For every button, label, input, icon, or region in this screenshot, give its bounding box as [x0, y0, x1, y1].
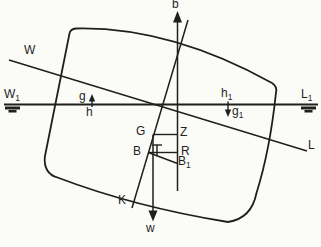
label-wedge-g1: g1 — [232, 105, 243, 120]
buoyancy-arrowhead-up — [173, 11, 182, 23]
label-center-of-gravity-G: G — [136, 125, 145, 137]
inclined-waterline-wl — [9, 60, 307, 151]
label-waterline-W1: W1 — [4, 88, 20, 103]
label-waterline-L1: L1 — [301, 88, 312, 103]
g1-down-arrowhead — [225, 110, 231, 118]
left-shore-hatch-upper — [5, 107, 20, 110]
label-L1-subscript: 1 — [308, 93, 313, 103]
label-wedge-h: h — [86, 106, 93, 118]
label-h1-subscript: 1 — [228, 92, 233, 102]
label-waterline-L: L — [308, 139, 315, 151]
label-keel-K: K — [118, 194, 126, 206]
label-weight-w: w — [146, 222, 155, 234]
label-point-Z: Z — [180, 126, 187, 138]
hull-outline — [45, 28, 277, 222]
label-B1-subscript: 1 — [186, 160, 191, 170]
label-wedge-g: g — [79, 90, 86, 102]
ship-centerline-kb — [132, 20, 188, 208]
label-center-of-buoyancy-B: B — [133, 145, 141, 157]
label-W1-subscript: 1 — [15, 93, 20, 103]
label-buoyancy-b: b — [172, 0, 179, 10]
label-wedge-h1: h1 — [221, 87, 232, 102]
diagram-canvas — [0, 0, 321, 247]
label-waterline-W: W — [24, 44, 35, 56]
g-up-arrowhead — [89, 94, 95, 102]
right-shore-hatch-lower — [305, 110, 313, 113]
label-g1-subscript: 1 — [239, 110, 244, 120]
left-shore-hatch-lower — [9, 110, 17, 113]
weight-arrowhead-down — [149, 211, 158, 222]
ship-stability-diagram: b W W1 g h h1 g1 L1 L G Z B R B1 K w — [0, 0, 321, 247]
label-new-buoyancy-B1: B1 — [178, 155, 191, 170]
right-shore-hatch-upper — [301, 107, 316, 110]
